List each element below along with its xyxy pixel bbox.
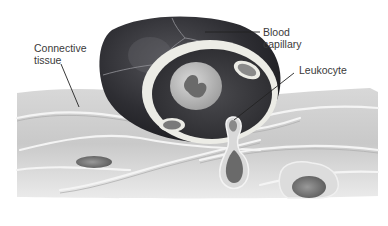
- capillary-diagram: Connective tissue Blood capillary Leukoc…: [0, 0, 388, 226]
- label-connective-tissue: Connective tissue: [34, 42, 87, 66]
- illustration: [0, 0, 388, 226]
- fibroblast-cell: [76, 156, 112, 168]
- label-blood-capillary: Blood capillary: [263, 26, 302, 50]
- label-leukocyte: Leukocyte: [299, 64, 347, 76]
